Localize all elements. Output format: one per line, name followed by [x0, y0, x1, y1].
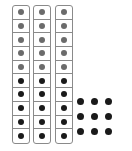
black-dot	[18, 133, 24, 139]
one-dot	[91, 128, 98, 135]
gray-dot	[18, 37, 24, 43]
one-dot	[77, 128, 84, 135]
black-dot	[39, 91, 45, 97]
black-dot	[39, 105, 45, 111]
ten-rod	[55, 5, 73, 144]
black-dot	[18, 91, 24, 97]
black-dot	[61, 78, 67, 84]
gray-dot	[39, 64, 45, 70]
rod-cell	[13, 74, 29, 88]
ten-rod	[33, 5, 51, 144]
black-dot	[61, 105, 67, 111]
black-dot	[18, 119, 24, 125]
rod-cell	[34, 74, 50, 88]
gray-dot	[61, 50, 67, 56]
one-dot	[77, 98, 84, 105]
rod-cell	[34, 47, 50, 61]
gray-dot	[39, 23, 45, 29]
black-dot	[18, 78, 24, 84]
rod-cell	[56, 20, 72, 34]
black-dot	[39, 119, 45, 125]
one-dot	[77, 113, 84, 120]
rod-cell	[56, 102, 72, 116]
rod-cell	[56, 129, 72, 143]
ones-group	[77, 98, 117, 138]
rod-cell	[34, 129, 50, 143]
rod-cell	[34, 116, 50, 130]
one-dot	[105, 113, 112, 120]
gray-dot	[18, 9, 24, 15]
rod-cell	[13, 20, 29, 34]
black-dot	[39, 78, 45, 84]
rod-cell	[56, 33, 72, 47]
rod-cell	[56, 74, 72, 88]
gray-dot	[61, 37, 67, 43]
one-dot	[105, 98, 112, 105]
gray-dot	[18, 23, 24, 29]
rod-cell	[34, 33, 50, 47]
gray-dot	[61, 64, 67, 70]
rod-cell	[34, 20, 50, 34]
rod-cell	[34, 61, 50, 75]
black-dot	[39, 133, 45, 139]
gray-dot	[61, 23, 67, 29]
rod-cell	[56, 47, 72, 61]
gray-dot	[18, 64, 24, 70]
one-dot	[91, 113, 98, 120]
rod-cell	[34, 102, 50, 116]
rod-cell	[13, 102, 29, 116]
rod-cell	[13, 129, 29, 143]
rod-cell	[34, 6, 50, 20]
gray-dot	[18, 50, 24, 56]
rod-cell	[13, 61, 29, 75]
rod-cell	[56, 116, 72, 130]
rod-cell	[13, 116, 29, 130]
rod-cell	[13, 33, 29, 47]
black-dot	[61, 119, 67, 125]
ten-rod	[12, 5, 30, 144]
gray-dot	[61, 9, 67, 15]
gray-dot	[39, 9, 45, 15]
rod-cell	[56, 6, 72, 20]
black-dot	[18, 105, 24, 111]
rod-cell	[13, 88, 29, 102]
gray-dot	[39, 50, 45, 56]
rod-cell	[34, 88, 50, 102]
black-dot	[61, 91, 67, 97]
rod-cell	[13, 6, 29, 20]
one-dot	[91, 98, 98, 105]
rod-cell	[13, 47, 29, 61]
black-dot	[61, 133, 67, 139]
gray-dot	[39, 37, 45, 43]
rod-cell	[56, 88, 72, 102]
rod-cell	[56, 61, 72, 75]
one-dot	[105, 128, 112, 135]
